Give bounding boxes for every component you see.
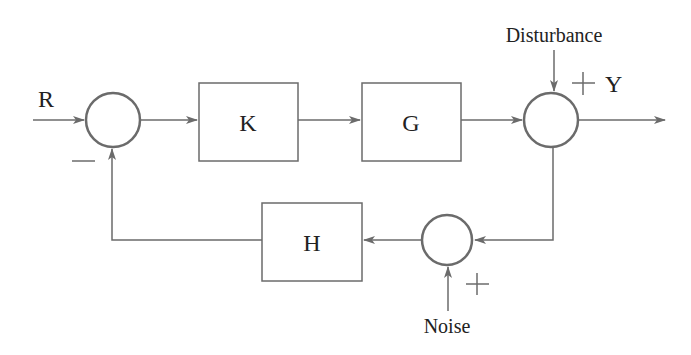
disturbance-label: Disturbance — [506, 24, 603, 46]
summing-junction-output — [524, 93, 578, 147]
summing-junction-input — [86, 93, 140, 147]
block-diagram: R K G H Disturbance Y Noise — [0, 0, 691, 355]
feedback-path-to-input-junction — [112, 149, 262, 240]
block-k-label: K — [239, 110, 257, 136]
output-label-y: Y — [605, 71, 622, 97]
feedback-path-to-noise-junction — [475, 147, 553, 240]
summing-junction-noise — [422, 215, 472, 265]
block-g-label: G — [402, 110, 419, 136]
noise-label: Noise — [424, 315, 471, 337]
block-h-label: H — [303, 230, 320, 256]
input-label-r: R — [38, 86, 54, 112]
